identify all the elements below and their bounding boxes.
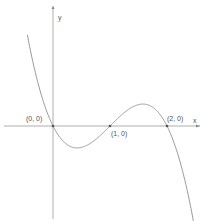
- label-1-0: (1, 0): [111, 130, 127, 138]
- cubic-curve: [27, 35, 195, 221]
- cubic-graph: y x (0, 0) (1, 0) (2, 0): [0, 0, 204, 221]
- x-axis-label: x: [193, 117, 197, 124]
- point-2-0: [166, 125, 169, 128]
- y-axis-label: y: [58, 14, 62, 22]
- point-1-0: [109, 125, 112, 128]
- label-2-0: (2, 0): [167, 115, 183, 123]
- label-origin: (0, 0): [26, 115, 42, 123]
- point-origin: [52, 125, 55, 128]
- y-axis-arrow-icon: [52, 6, 55, 9]
- x-axis-arrow-icon: [196, 125, 200, 128]
